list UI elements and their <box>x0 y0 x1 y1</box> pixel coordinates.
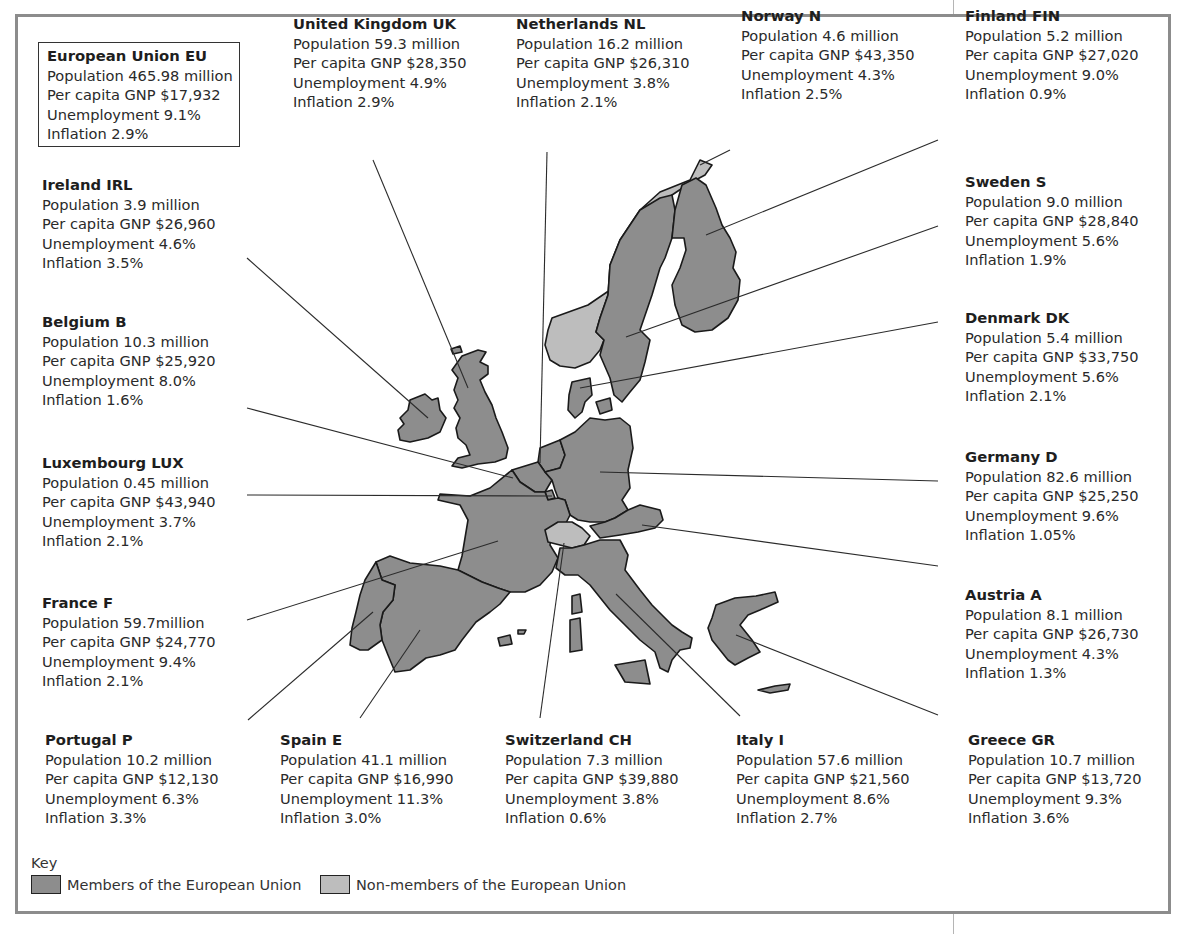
info-unemployment: Unemployment 8.0% <box>42 371 216 391</box>
country-switzerland[interactable] <box>545 522 590 548</box>
info-population: Population 4.6 million <box>741 26 915 46</box>
info-title: Austria A <box>965 585 1139 605</box>
info-title: Netherlands NL <box>516 14 690 34</box>
info-population: Population 3.9 million <box>42 195 216 215</box>
info-ie: Ireland IRL Population 3.9 million Per c… <box>42 175 216 273</box>
info-unemployment: Unemployment 3.8% <box>516 73 690 93</box>
info-title: Switzerland CH <box>505 730 679 750</box>
info-unemployment: Unemployment 9.0% <box>965 65 1139 85</box>
country-sweden[interactable] <box>596 195 675 402</box>
info-inflation: Inflation 3.6% <box>968 808 1142 828</box>
info-title: Finland FIN <box>965 6 1139 26</box>
island-zealand <box>596 398 612 414</box>
info-inflation: Inflation 2.9% <box>293 92 467 112</box>
info-population: Population 59.3 million <box>293 34 467 54</box>
info-se: Sweden S Population 9.0 million Per capi… <box>965 172 1139 270</box>
info-title: Denmark DK <box>965 308 1139 328</box>
info-gnp: Per capita GNP $28,350 <box>293 53 467 73</box>
country-uk[interactable] <box>452 350 508 468</box>
info-population: Population 41.1 million <box>280 750 454 770</box>
info-unemployment: Unemployment 4.3% <box>965 644 1139 664</box>
country-denmark[interactable] <box>568 378 592 418</box>
info-gnp: Per capita GNP $39,880 <box>505 769 679 789</box>
info-population: Population 0.45 million <box>42 473 216 493</box>
info-inflation: Inflation 1.9% <box>965 250 1139 270</box>
info-unemployment: Unemployment 9.1% <box>47 105 233 125</box>
info-unemployment: Unemployment 9.6% <box>965 506 1139 526</box>
info-ch: Switzerland CH Population 7.3 million Pe… <box>505 730 679 828</box>
info-unemployment: Unemployment 11.3% <box>280 789 454 809</box>
info-gnp: Per capita GNP $25,920 <box>42 351 216 371</box>
country-greece[interactable] <box>708 592 778 665</box>
info-population: Population 59.7million <box>42 613 216 633</box>
info-title: Ireland IRL <box>42 175 216 195</box>
info-population: Population 5.2 million <box>965 26 1139 46</box>
member-swatch-icon <box>31 875 61 894</box>
non-member-swatch-icon <box>320 875 350 894</box>
island-corsica <box>572 594 582 614</box>
info-unemployment: Unemployment 3.8% <box>505 789 679 809</box>
info-population: Population 10.7 million <box>968 750 1142 770</box>
key-member-label: Members of the European Union <box>67 877 301 893</box>
info-title: Luxembourg LUX <box>42 453 216 473</box>
info-population: Population 82.6 million <box>965 467 1139 487</box>
info-title: Norway N <box>741 6 915 26</box>
info-population: Population 10.3 million <box>42 332 216 352</box>
info-fi: Finland FIN Population 5.2 million Per c… <box>965 6 1139 104</box>
info-inflation: Inflation 3.3% <box>45 808 219 828</box>
info-title: Sweden S <box>965 172 1139 192</box>
info-unemployment: Unemployment 4.6% <box>42 234 216 254</box>
info-population: Population 16.2 million <box>516 34 690 54</box>
info-unemployment: Unemployment 9.4% <box>42 652 216 672</box>
info-inflation: Inflation 1.3% <box>965 663 1139 683</box>
info-population: Population 57.6 million <box>736 750 910 770</box>
info-gnp: Per capita GNP $16,990 <box>280 769 454 789</box>
info-title: Spain E <box>280 730 454 750</box>
info-unemployment: Unemployment 9.3% <box>968 789 1142 809</box>
info-unemployment: Unemployment 6.3% <box>45 789 219 809</box>
info-eu: European Union EU Population 465.98 mill… <box>38 42 240 147</box>
info-title: Belgium B <box>42 312 216 332</box>
info-unemployment: Unemployment 4.3% <box>741 65 915 85</box>
info-it: Italy I Population 57.6 million Per capi… <box>736 730 910 828</box>
info-gnp: Per capita GNP $26,730 <box>965 624 1139 644</box>
island-sardinia <box>570 618 582 652</box>
info-inflation: Inflation 0.6% <box>505 808 679 828</box>
info-inflation: Inflation 0.9% <box>965 84 1139 104</box>
info-fr: France F Population 59.7million Per capi… <box>42 593 216 691</box>
info-population: Population 465.98 million <box>47 66 233 86</box>
info-gr: Greece GR Population 10.7 million Per ca… <box>968 730 1142 828</box>
island-menorca <box>518 630 526 634</box>
info-title: Portugal P <box>45 730 219 750</box>
country-ireland[interactable] <box>398 394 446 442</box>
info-at: Austria A Population 8.1 million Per cap… <box>965 585 1139 683</box>
info-population: Population 10.2 million <box>45 750 219 770</box>
island-crete <box>758 684 790 693</box>
info-gnp: Per capita GNP $26,310 <box>516 53 690 73</box>
info-gnp: Per capita GNP $43,940 <box>42 492 216 512</box>
info-title: Germany D <box>965 447 1139 467</box>
info-no: Norway N Population 4.6 million Per capi… <box>741 6 915 104</box>
info-inflation: Inflation 3.5% <box>42 253 216 273</box>
info-inflation: Inflation 2.7% <box>736 808 910 828</box>
info-gnp: Per capita GNP $24,770 <box>42 632 216 652</box>
info-lu: Luxembourg LUX Population 0.45 million P… <box>42 453 216 551</box>
info-inflation: Inflation 2.9% <box>47 124 233 144</box>
info-title: European Union EU <box>47 46 233 66</box>
info-inflation: Inflation 3.0% <box>280 808 454 828</box>
info-unemployment: Unemployment 8.6% <box>736 789 910 809</box>
info-gnp: Per capita GNP $43,350 <box>741 45 915 65</box>
info-inflation: Inflation 2.1% <box>965 386 1139 406</box>
info-gnp: Per capita GNP $21,560 <box>736 769 910 789</box>
info-unemployment: Unemployment 4.9% <box>293 73 467 93</box>
info-gnp: Per capita GNP $17,932 <box>47 85 233 105</box>
info-de: Germany D Population 82.6 million Per ca… <box>965 447 1139 545</box>
key-item-non-member: Non-members of the European Union <box>320 875 626 894</box>
info-pt: Portugal P Population 10.2 million Per c… <box>45 730 219 828</box>
info-title: France F <box>42 593 216 613</box>
info-inflation: Inflation 1.05% <box>965 525 1139 545</box>
info-uk: United Kingdom UK Population 59.3 millio… <box>293 14 467 112</box>
info-title: Italy I <box>736 730 910 750</box>
island-mallorca <box>498 635 512 646</box>
info-gnp: Per capita GNP $27,020 <box>965 45 1139 65</box>
